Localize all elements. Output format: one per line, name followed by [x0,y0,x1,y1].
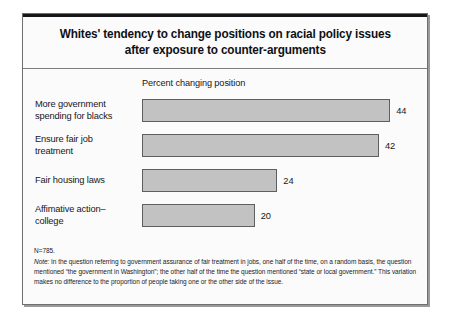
figure-frame: Whites' tendency to change positions on … [22,13,428,305]
bar-row: More government spending for blacks 44 [23,93,427,128]
bar-category-label: Ensure fair job treatment [23,134,142,157]
bar-rect [142,204,255,227]
bar-category-label: Affimative action– college [23,204,142,227]
figure-footnote: N=785. Note: In the question referring t… [34,246,418,287]
bar-row: Affimative action– college 20 [23,198,427,233]
bar-value-label: 20 [261,211,271,221]
note-label: Note: [34,258,49,265]
plot-area: Percent changing position More governmen… [23,69,427,242]
bar-row: Fair housing laws 24 [23,163,427,198]
bar-rect [142,134,379,157]
bar-category-label-line-1: Fair housing laws [35,175,105,185]
bar-rect [142,99,390,122]
bar-value-label: 44 [396,106,406,116]
bar-category-label: More government spending for blacks [23,99,142,122]
title-band: Whites' tendency to change positions on … [23,14,427,69]
bar-track: 44 [142,93,427,128]
figure-root: Whites' tendency to change positions on … [0,0,449,320]
bar-category-label-line-1: More government [35,99,106,109]
bar-category-label-line-2: spending for blacks [35,111,112,121]
bar-track: 24 [142,163,427,198]
chart-title-line-2: after exposure to counter-arguments [124,43,325,57]
bar-rect [142,169,277,192]
axis-caption: Percent changing position [142,78,245,88]
chart-title: Whites' tendency to change positions on … [46,27,404,59]
bar-row: Ensure fair job treatment 42 [23,128,427,163]
bar-category-label-line-2: treatment [35,146,73,156]
bar-category-label-line-1: Ensure fair job [35,134,93,144]
bars-container: More government spending for blacks 44 E… [23,93,427,233]
bar-category-label: Fair housing laws [23,175,142,187]
bar-track: 42 [142,128,427,163]
bar-track: 20 [142,198,427,233]
bar-value-label: 24 [283,176,293,186]
bar-category-label-line-1: Affimative action– [35,204,106,214]
bar-value-label: 42 [385,141,395,151]
bar-category-label-line-2: college [35,216,63,226]
chart-title-line-1: Whites' tendency to change positions on … [59,27,390,41]
note-text: In the question referring to government … [34,258,416,285]
sample-size-note: N=785. [34,246,418,256]
